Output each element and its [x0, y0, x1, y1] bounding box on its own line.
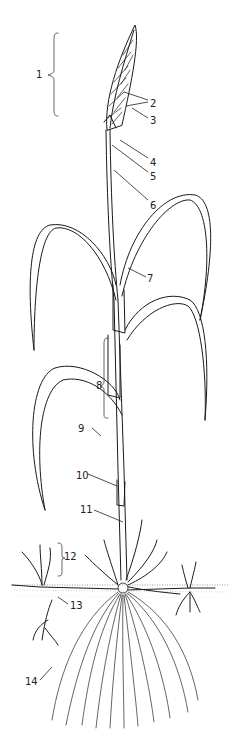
- label-13: 13: [70, 600, 83, 611]
- label-14: 14: [25, 676, 38, 687]
- grass-plant-diagram: 1 2 3 4 5 6 7 8 9 10 11 12 13 14: [0, 0, 247, 737]
- leader-arrows: [40, 92, 148, 680]
- culm: [106, 130, 127, 580]
- inflorescence: [104, 25, 137, 130]
- label-2: 2: [150, 98, 156, 109]
- label-9: 9: [78, 423, 84, 434]
- label-11: 11: [80, 504, 93, 515]
- fibrous-roots: [52, 592, 198, 728]
- label-7: 7: [147, 273, 153, 284]
- left-tiller: [22, 545, 58, 645]
- label-6: 6: [150, 200, 156, 211]
- middle-leaves: [33, 296, 207, 510]
- upper-leaves: [30, 195, 211, 350]
- bracket-1: [48, 33, 58, 116]
- label-10: 10: [76, 470, 89, 481]
- label-3: 3: [150, 115, 156, 126]
- crown: [85, 520, 180, 594]
- label-4: 4: [150, 157, 156, 168]
- rhizome: [12, 585, 215, 590]
- label-1: 1: [36, 69, 42, 80]
- label-5: 5: [150, 171, 156, 182]
- labels: 1 2 3 4 5 6 7 8 9 10 11 12 13 14: [25, 69, 156, 687]
- label-12: 12: [64, 551, 77, 562]
- bracket-8: [100, 338, 108, 418]
